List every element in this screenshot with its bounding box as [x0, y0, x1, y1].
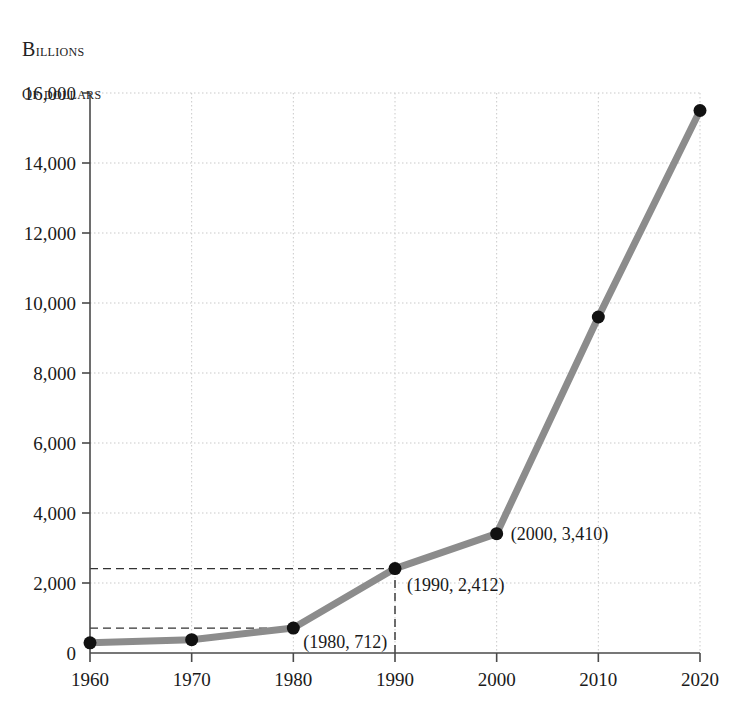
- data-point-marker: [84, 636, 97, 649]
- data-point-marker: [694, 104, 707, 117]
- y-tick-label: 2,000: [33, 573, 76, 594]
- y-tick-label: 8,000: [33, 363, 76, 384]
- y-tick-label: 0: [67, 643, 77, 664]
- data-point-marker: [287, 622, 300, 635]
- point-annotation-label: (1990, 2,412): [407, 575, 505, 596]
- data-point-marker: [592, 311, 605, 324]
- x-axis-tick-labels: 1960197019801990200020102020: [71, 669, 719, 690]
- line-chart-figure: Billions of dollars 02,0004,0006,0008,00…: [0, 0, 730, 721]
- y-axis-caption: Billions of dollars: [22, 18, 101, 125]
- y-tick-label: 6,000: [33, 433, 76, 454]
- y-axis-caption-line-1: Billions: [22, 39, 101, 61]
- y-tick-label: 14,000: [24, 153, 76, 174]
- x-tick-label: 1980: [274, 669, 312, 690]
- x-tick-label: 1970: [173, 669, 211, 690]
- data-point-marker: [490, 527, 503, 540]
- y-axis-tick-labels: 02,0004,0006,0008,00010,00012,00014,0001…: [24, 83, 76, 664]
- axis-ticks-group: [82, 93, 700, 662]
- y-tick-label: 10,000: [24, 293, 76, 314]
- y-tick-label: 12,000: [24, 223, 76, 244]
- x-tick-label: 2010: [579, 669, 617, 690]
- data-point-marker: [389, 562, 402, 575]
- data-point-marker: [185, 633, 198, 646]
- point-annotation-label: (1980, 712): [303, 632, 387, 653]
- point-annotations-group: (1980, 712)(1990, 2,412)(2000, 3,410): [303, 524, 608, 653]
- y-tick-label: 4,000: [33, 503, 76, 524]
- x-tick-label: 2020: [681, 669, 719, 690]
- chart-plot-area: 02,0004,0006,0008,00010,00012,00014,0001…: [0, 0, 730, 721]
- x-tick-label: 1960: [71, 669, 109, 690]
- x-tick-label: 1990: [376, 669, 414, 690]
- point-annotation-label: (2000, 3,410): [511, 524, 608, 545]
- y-axis-caption-line-2: of dollars: [22, 82, 101, 104]
- x-tick-label: 2000: [478, 669, 516, 690]
